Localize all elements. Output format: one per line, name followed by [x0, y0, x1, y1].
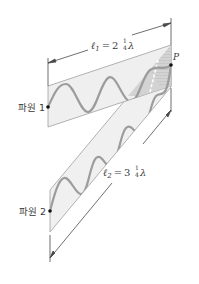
- l2-label: ℓ2=3: [103, 167, 130, 180]
- source-2-label: 파원 2: [19, 206, 46, 217]
- point-p-label: P: [172, 52, 180, 62]
- point-p-dot: [169, 63, 173, 67]
- l2-frac-den: 4: [135, 171, 139, 178]
- l1-unit: λ: [127, 40, 134, 51]
- source-1-label: 파원 1: [18, 102, 45, 113]
- l1-frac-num: 1: [123, 37, 127, 44]
- l1-frac-den: 4: [123, 44, 127, 51]
- source-2-dot: [48, 209, 52, 213]
- l1-label: ℓ1=2: [91, 40, 118, 53]
- interference-diagram: ℓ1=2 1 4 λ ℓ2=3 1 4 λ 파원 1 파원 2 P: [0, 0, 199, 284]
- l2-frac-num: 1: [135, 164, 139, 171]
- source-1-dot: [46, 105, 50, 109]
- l2-unit: λ: [139, 167, 146, 178]
